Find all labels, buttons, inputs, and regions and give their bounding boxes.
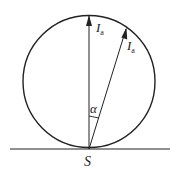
angle-label: α [90, 101, 98, 116]
circle-diagram: Ia Ia α S [0, 0, 181, 174]
vertical-arrowhead-icon [86, 15, 92, 26]
slanted-vector-arrow [89, 29, 126, 149]
vertical-vector-label: Ia [95, 20, 104, 37]
point-label: S [84, 154, 91, 169]
slanted-vector-label: Ia [126, 38, 135, 55]
diagram-canvas: Ia Ia α S [0, 0, 181, 174]
angle-arc [89, 116, 99, 118]
